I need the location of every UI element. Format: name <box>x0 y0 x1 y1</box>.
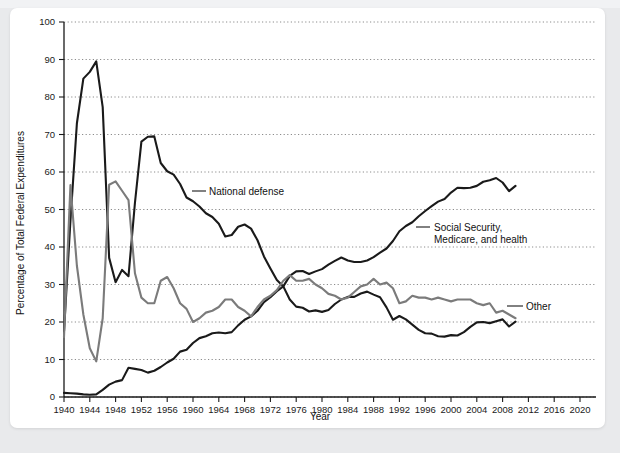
x-tick-label: 1976 <box>286 404 307 415</box>
x-tick-label: 2020 <box>569 404 590 415</box>
x-tick-label: 2000 <box>440 404 461 415</box>
y-tick-label: 90 <box>44 54 55 65</box>
x-tick-label: 2008 <box>492 404 513 415</box>
y-tick-label: 60 <box>44 166 55 177</box>
x-tick-label: 1964 <box>208 404 229 415</box>
x-tick-label: 2012 <box>518 404 539 415</box>
y-tick-label: 40 <box>44 241 55 252</box>
x-tick-label: 1972 <box>260 404 281 415</box>
series-line-social-security-medicare-and-health <box>64 178 516 395</box>
x-tick-label: 1996 <box>415 404 436 415</box>
series-line-other <box>64 181 516 361</box>
x-tick-label: 1968 <box>234 404 255 415</box>
x-axis-ticks-group <box>64 397 580 402</box>
y-tick-label: 50 <box>44 204 55 215</box>
series-annotations-group: National defenseSocial Security,Medicare… <box>192 186 552 312</box>
national-defense-label: National defense <box>209 186 284 197</box>
y-tick-label: 20 <box>44 316 55 327</box>
x-tick-label: 1988 <box>363 404 384 415</box>
social-security-label-line2: Medicare, and health <box>434 234 527 245</box>
y-tick-label: 70 <box>44 129 55 140</box>
x-tick-label: 1948 <box>105 404 126 415</box>
y-tick-label: 30 <box>44 279 55 290</box>
y-tick-label: 0 <box>50 391 55 402</box>
x-tick-label: 1956 <box>157 404 178 415</box>
other-label: Other <box>526 301 552 312</box>
y-axis-title: Percentage of Total Federal Expenditures <box>15 131 26 315</box>
x-tick-label: 1960 <box>182 404 203 415</box>
chart-card: 0102030405060708090100 19401944194819521… <box>10 8 605 428</box>
y-axis-tick-labels-group: 0102030405060708090100 <box>39 16 55 402</box>
x-tick-label: 1952 <box>131 404 152 415</box>
page-top-strip <box>0 0 620 8</box>
x-tick-label: 1992 <box>389 404 410 415</box>
x-tick-label: 1944 <box>79 404 100 415</box>
gridlines-group <box>64 22 596 397</box>
x-tick-label: 1940 <box>53 404 74 415</box>
y-axis-ticks-group <box>59 22 64 397</box>
line-chart: 0102030405060708090100 19401944194819521… <box>10 8 605 428</box>
y-tick-label: 100 <box>39 16 55 27</box>
x-tick-label: 2004 <box>466 404 487 415</box>
y-tick-label: 10 <box>44 354 55 365</box>
series-line-national-defense <box>64 61 516 336</box>
x-tick-label: 1984 <box>337 404 358 415</box>
x-tick-label: 2016 <box>544 404 565 415</box>
social-security-label-line1: Social Security, <box>434 222 502 233</box>
page-bottom-strip <box>0 428 620 453</box>
y-tick-label: 80 <box>44 91 55 102</box>
x-axis-title: Year <box>310 411 331 422</box>
